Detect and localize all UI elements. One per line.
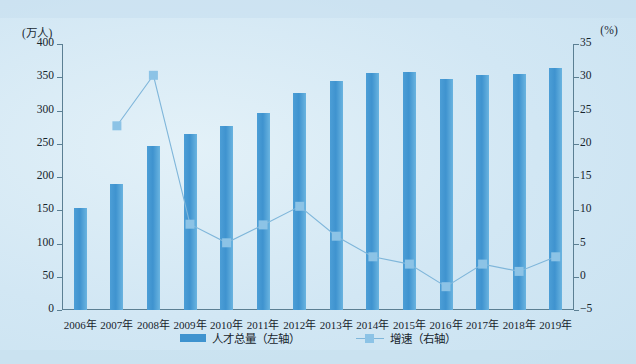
line-marker	[149, 71, 158, 80]
line-marker	[222, 238, 231, 247]
right-tick-label: 25	[580, 103, 620, 115]
line-marker	[368, 252, 377, 261]
plot-area: 400350300250200150100500 35302520151050−…	[62, 44, 574, 310]
line-marker	[295, 202, 304, 211]
line-marker	[112, 121, 121, 130]
legend-line-label: 增速（右轴）	[390, 330, 456, 346]
chart-legend: 人才总量（左轴） 增速（右轴）	[0, 330, 636, 346]
left-tick-label: 50	[14, 269, 54, 281]
legend-item-bar: 人才总量（左轴）	[180, 330, 300, 346]
page-bottom-band	[0, 350, 636, 364]
right-tick-label: 20	[580, 136, 620, 148]
growth-rate-line-series	[62, 44, 574, 310]
left-tick-label: 100	[14, 236, 54, 248]
right-tick	[574, 244, 579, 245]
right-tick-label: 0	[580, 269, 620, 281]
line-marker	[515, 267, 524, 276]
right-tick-label: 10	[580, 202, 620, 214]
growth-rate-line	[117, 75, 556, 286]
line-marker	[186, 220, 195, 229]
legend-line-swatch	[356, 334, 384, 343]
right-tick	[574, 310, 579, 311]
chart-page: (万人) (%) 400350300250200150100500 353025…	[0, 0, 636, 364]
line-marker	[332, 232, 341, 241]
right-tick-label: 35	[580, 36, 620, 48]
right-tick	[574, 44, 579, 45]
right-tick	[574, 210, 579, 211]
left-tick-label: 200	[14, 169, 54, 181]
left-tick-label: 250	[14, 136, 54, 148]
left-tick-label: 350	[14, 69, 54, 81]
right-tick-label: 15	[580, 169, 620, 181]
line-marker	[259, 220, 268, 229]
left-tick-label: 300	[14, 103, 54, 115]
right-tick	[574, 277, 579, 278]
line-marker	[405, 260, 414, 269]
right-tick-label: 5	[580, 236, 620, 248]
right-tick	[574, 111, 579, 112]
right-tick-label: −5	[580, 302, 620, 314]
page-top-band	[0, 0, 636, 18]
line-marker	[442, 282, 451, 291]
legend-bar-label: 人才总量（左轴）	[212, 330, 300, 346]
left-tick-label: 0	[14, 302, 54, 314]
left-tick-label: 150	[14, 202, 54, 214]
right-tick	[574, 144, 579, 145]
line-marker	[551, 252, 560, 261]
right-axis-unit-label: (%)	[600, 24, 618, 36]
left-tick-label: 400	[14, 36, 54, 48]
line-marker	[478, 260, 487, 269]
legend-item-line: 增速（右轴）	[356, 330, 456, 346]
right-tick	[574, 177, 579, 178]
right-tick-label: 30	[580, 69, 620, 81]
right-tick	[574, 77, 579, 78]
left-tick	[57, 310, 62, 311]
legend-bar-swatch	[180, 334, 206, 342]
